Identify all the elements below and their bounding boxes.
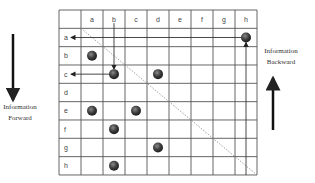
dot-h-b [109, 161, 119, 171]
forward-label-line2: Forward [0, 113, 40, 124]
forward-label-line1: Information [0, 102, 40, 113]
row-header-b: b [64, 52, 68, 59]
column-header-b: b [112, 16, 116, 23]
dot-b-a [87, 51, 97, 61]
information-forward-label: Information Forward [0, 102, 40, 124]
dot-c-b [109, 69, 119, 79]
row-header-d: d [64, 89, 68, 96]
dot-a-h [241, 32, 251, 42]
dot-e-a [87, 106, 97, 116]
column-header-g: g [222, 16, 226, 24]
row-header-c: c [64, 71, 68, 78]
backward-label-line1: Information [256, 46, 306, 57]
column-header-c: c [134, 16, 138, 23]
row-header-a: a [64, 34, 68, 41]
dot-e-c [131, 106, 141, 116]
information-backward-label: Information Backward [256, 46, 306, 68]
dot-g-d [153, 142, 163, 152]
column-header-d: d [156, 16, 160, 23]
backward-label-line2: Backward [256, 57, 306, 68]
row-header-g: g [64, 144, 68, 152]
column-header-h: h [244, 16, 248, 23]
row-header-h: h [64, 162, 68, 169]
dot-c-d [153, 69, 163, 79]
row-header-f: f [64, 126, 66, 133]
column-header-e: e [178, 16, 182, 23]
dependency-matrix-diagram: abcdefghabcdefgh [0, 0, 315, 183]
column-header-f: f [201, 16, 203, 23]
dot-f-b [109, 124, 119, 134]
column-header-a: a [90, 16, 94, 23]
row-header-e: e [64, 107, 68, 114]
